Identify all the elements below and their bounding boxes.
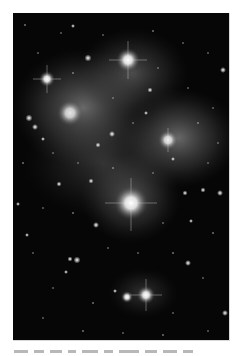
caption-word <box>82 350 98 353</box>
star-field-image <box>13 13 229 340</box>
caption-word <box>163 350 177 353</box>
caption-word <box>34 350 44 353</box>
page <box>0 0 242 356</box>
caption-word <box>145 350 157 353</box>
caption-word <box>183 350 193 353</box>
caption-word <box>68 350 76 353</box>
caption-word <box>14 350 28 353</box>
pleiades-photo <box>13 13 230 341</box>
caption-word <box>104 350 113 353</box>
caption-word <box>119 350 139 353</box>
caption-word <box>50 350 62 353</box>
caption-line-cut-off <box>14 350 228 356</box>
